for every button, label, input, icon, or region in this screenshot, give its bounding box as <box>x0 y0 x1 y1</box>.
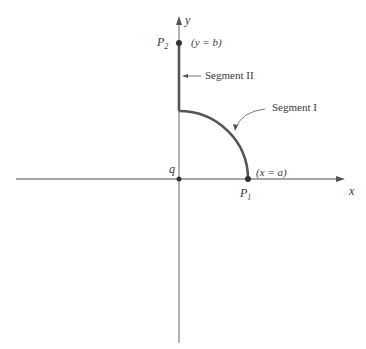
point-p2 <box>176 40 182 46</box>
segment-2-label: Segment II <box>205 69 254 81</box>
segment-2-leader-arrow-icon <box>182 74 188 78</box>
p1-subscript: 1 <box>247 193 251 202</box>
origin-label: q <box>169 162 175 177</box>
p2-label: P2 <box>157 35 168 50</box>
segment-1-label: Segment I <box>272 101 317 113</box>
origin-point <box>177 177 182 182</box>
segment-1-leader-arrow-icon <box>233 124 238 131</box>
p2-condition: (y = b) <box>191 36 222 48</box>
y-axis-arrow-icon <box>176 16 182 25</box>
p1-label: P1 <box>240 186 251 201</box>
p1-condition: (x = a) <box>256 166 287 178</box>
diagram-canvas <box>0 0 366 349</box>
x-axis-label: x <box>349 184 354 199</box>
p2-subscript: 2 <box>164 42 168 51</box>
path-diagram: y x q P2 (y = b) P1 (x = a) Segment II S… <box>0 0 366 349</box>
segment-1-path <box>179 111 248 179</box>
point-p1 <box>245 176 251 182</box>
segment-1-leader <box>236 109 265 128</box>
y-axis-label: y <box>185 13 190 28</box>
x-axis-arrow-icon <box>336 176 345 182</box>
